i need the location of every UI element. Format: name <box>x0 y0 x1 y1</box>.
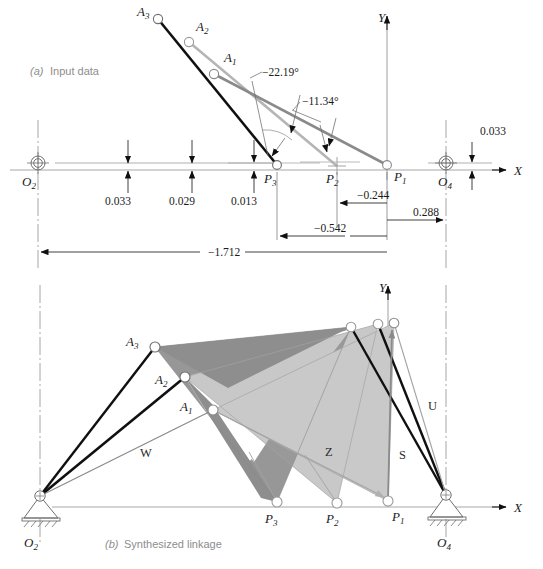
ground-pivot-o4 <box>428 490 466 526</box>
vector-label-w: W <box>140 446 152 460</box>
vector-label-u: U <box>428 399 437 413</box>
dim-label-033-right: 0.033 <box>480 125 506 137</box>
angle-label-2: −11.34° <box>302 95 339 107</box>
link-u1 <box>394 323 446 495</box>
y-axis-label-b: Y <box>379 280 388 295</box>
joint-a1-b <box>208 405 218 415</box>
joint-a3-b <box>150 342 160 352</box>
angle-label-1: −22.19° <box>262 66 299 78</box>
link-a3-p3 <box>158 19 277 165</box>
dim-label-013: 0.013 <box>231 195 257 207</box>
point-label-p2-b: P2 <box>325 511 339 528</box>
input-data-diagram: (a) Input data X Y <box>10 4 523 268</box>
caption-b-text: Synthesized linkage <box>124 538 222 550</box>
figure-page: (a) Input data X Y <box>0 0 543 569</box>
joint-a2-a <box>184 37 193 46</box>
joint-p2-b <box>332 498 342 508</box>
point-label-p3-a: P3 <box>263 171 277 188</box>
point-label-p1-a: P1 <box>393 169 406 186</box>
synthesized-linkage-diagram: X Y <box>22 280 523 552</box>
x-axis-label-b: X <box>513 500 523 515</box>
dim-label-029: 0.029 <box>169 195 195 207</box>
point-label-o2-a: O2 <box>22 174 36 191</box>
joint-p3-a <box>273 161 282 170</box>
kinematic-synthesis-figure: (a) Input data X Y <box>0 0 543 569</box>
dim-label-033-left: 0.033 <box>105 195 131 207</box>
joint-a2-b <box>180 372 190 382</box>
point-label-a2-b: A2 <box>154 372 168 389</box>
point-label-a1-a: A1 <box>223 50 236 67</box>
point-label-o4-a: O4 <box>438 174 452 191</box>
joint-a3-a <box>153 14 162 23</box>
dim-label-1712: −1.712 <box>208 246 241 258</box>
point-label-p3-b: P3 <box>264 511 278 528</box>
caption-b-prefix: (b) <box>105 538 119 550</box>
point-label-o2-b: O2 <box>24 535 38 552</box>
point-label-a1-b: A1 <box>179 399 192 416</box>
point-label-o4-b: O4 <box>437 535 451 552</box>
joint-b1-b <box>389 318 399 328</box>
joint-b2-b <box>373 319 383 329</box>
caption-a-text: Input data <box>50 65 100 77</box>
joint-p1-a <box>383 161 392 170</box>
point-label-a2-a: A2 <box>195 19 209 36</box>
point-label-a3-a: A3 <box>136 4 150 21</box>
ground-pivot-o2 <box>22 491 60 527</box>
vector-label-s: S <box>399 448 406 462</box>
y-axis-label-a: Y <box>378 10 387 25</box>
x-axis-label-a: X <box>513 163 523 178</box>
dim-label-0542: −0.542 <box>314 222 347 234</box>
dim-label-0244: −0.244 <box>357 189 390 201</box>
joint-a1-a <box>209 69 218 78</box>
dim-label-0288: 0.288 <box>413 206 439 218</box>
caption-a-prefix: (a) <box>30 65 44 77</box>
point-label-a3-b: A3 <box>125 334 139 351</box>
point-label-p1-b: P1 <box>391 509 404 526</box>
link-w2 <box>40 377 185 496</box>
pivot-o2-a <box>27 152 49 174</box>
vector-label-z: Z <box>325 445 333 459</box>
link-w1 <box>40 410 213 496</box>
link-w3 <box>40 347 155 496</box>
joint-b3-b <box>346 322 356 332</box>
pivot-o4-a <box>435 152 457 174</box>
joint-p3-b <box>272 497 282 507</box>
joint-p1-b <box>383 496 393 506</box>
